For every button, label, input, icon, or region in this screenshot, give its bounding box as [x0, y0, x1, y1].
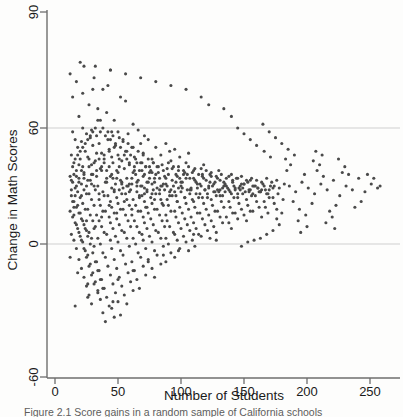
data-point [134, 204, 137, 207]
data-point [258, 190, 261, 193]
data-point [280, 212, 283, 215]
data-point [124, 72, 127, 75]
data-point [269, 155, 272, 158]
data-point [86, 208, 89, 211]
data-point [72, 239, 75, 242]
data-point [111, 134, 114, 137]
data-point [119, 313, 122, 316]
data-point [115, 212, 118, 215]
data-point [77, 181, 80, 184]
figure-container: 90600-60 050100150200250 Change in Math … [0, 0, 403, 417]
data-point [219, 179, 222, 182]
data-point [81, 146, 84, 149]
data-point [172, 184, 175, 187]
data-point [273, 184, 276, 187]
data-point [177, 221, 180, 224]
data-point [351, 188, 354, 191]
data-point [187, 152, 190, 155]
data-point [80, 183, 83, 186]
data-point [90, 237, 93, 240]
figure-caption: Figure 2.1 Score gains in a random sampl… [0, 406, 403, 417]
data-point [140, 233, 143, 236]
data-point [125, 157, 128, 160]
data-point [164, 142, 167, 145]
data-point [93, 76, 96, 79]
data-point [275, 217, 278, 220]
data-point [152, 161, 155, 164]
data-point [300, 181, 303, 184]
data-point [114, 235, 117, 238]
data-point [229, 206, 232, 209]
data-point [283, 183, 286, 186]
data-point [183, 196, 186, 199]
data-point [337, 157, 340, 160]
data-point [266, 212, 269, 215]
data-point [265, 177, 268, 180]
data-point [115, 177, 118, 180]
data-point [69, 256, 72, 259]
data-point [91, 144, 94, 147]
data-point [118, 188, 121, 191]
data-point [234, 212, 237, 215]
data-point [99, 204, 102, 207]
data-point [85, 132, 88, 135]
data-point [284, 157, 287, 160]
data-point [93, 204, 96, 207]
data-point [236, 126, 239, 129]
data-point [93, 161, 96, 164]
data-point [178, 155, 181, 158]
data-point [162, 254, 165, 257]
data-point [77, 163, 80, 166]
data-point [271, 196, 274, 199]
data-point [153, 181, 156, 184]
data-point [341, 171, 344, 174]
data-point [89, 179, 92, 182]
data-point [222, 107, 225, 110]
data-point [221, 194, 224, 197]
data-point [307, 186, 310, 189]
data-point [177, 186, 180, 189]
data-point [90, 163, 93, 166]
data-point [195, 181, 198, 184]
data-point [249, 138, 252, 141]
data-point [173, 190, 176, 193]
data-point [113, 188, 116, 191]
data-point [104, 134, 107, 137]
data-point [242, 132, 245, 135]
data-point [158, 188, 161, 191]
data-point [312, 159, 315, 162]
data-point [86, 235, 89, 238]
data-point [130, 177, 133, 180]
data-point [310, 202, 313, 205]
data-point [113, 258, 116, 261]
data-point [177, 165, 180, 168]
data-point [255, 144, 258, 147]
data-point [133, 169, 136, 172]
data-point [188, 177, 191, 180]
data-point [187, 208, 190, 211]
data-point [157, 231, 160, 234]
data-point [77, 115, 80, 118]
data-point [135, 225, 138, 228]
data-point [224, 190, 227, 193]
data-point [162, 245, 165, 248]
data-point [128, 204, 131, 207]
data-point [70, 154, 73, 157]
data-point [240, 175, 243, 178]
data-point [292, 200, 295, 203]
data-point [379, 184, 382, 187]
data-point [205, 208, 208, 211]
data-point [100, 215, 103, 218]
data-point [71, 130, 74, 133]
data-point [115, 217, 118, 220]
data-point [89, 213, 92, 216]
data-point [240, 245, 243, 248]
data-point [75, 184, 78, 187]
data-point [76, 146, 79, 149]
data-point [148, 235, 151, 238]
data-point [93, 245, 96, 248]
data-point [90, 198, 93, 201]
data-point [184, 161, 187, 164]
data-point [167, 173, 170, 176]
data-point [96, 237, 99, 240]
